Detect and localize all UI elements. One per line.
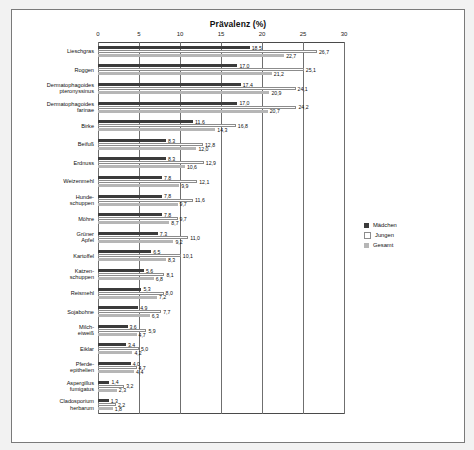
bar-gesamt xyxy=(98,110,268,113)
bar-group: Eiklar3,45,04,2 xyxy=(98,340,344,359)
bar-gesamt xyxy=(98,240,173,243)
bar-value-label: 26,7 xyxy=(319,48,329,54)
category-label: Beifuß xyxy=(78,141,98,147)
bar-gesamt xyxy=(98,351,132,354)
category-label: Reismehl xyxy=(71,290,98,296)
bar-jungen xyxy=(98,143,203,146)
category-label: Weizenmehl xyxy=(63,178,98,184)
bar-group: Hunde- schuppen7,811,69,7 xyxy=(98,191,344,210)
bar-value-label: 20,9 xyxy=(271,89,281,95)
bar-value-label: 3,2 xyxy=(126,383,133,389)
category-label: Milch- eiweiß xyxy=(78,324,98,336)
bar-mädchen xyxy=(98,64,237,67)
bar-group: Birke11,616,814,3 xyxy=(98,116,344,135)
bar-group: Pferde- epithelien4,04,74,4 xyxy=(98,358,344,377)
bar-value-label: 14,3 xyxy=(217,126,227,132)
bar-group: Sojabohne4,97,76,3 xyxy=(98,302,344,321)
bar-jungen xyxy=(98,87,296,90)
category-label: Möhre xyxy=(78,216,98,222)
bar-value-label: 5,0 xyxy=(141,346,148,352)
category-label: Cladosporium herbarum xyxy=(59,398,98,410)
bar-value-label: 4,2 xyxy=(134,350,141,356)
bar-group: Lieschgras18,526,722,7 xyxy=(98,42,344,61)
bar-mädchen xyxy=(98,157,166,160)
bar-gesamt xyxy=(98,277,154,280)
category-label: Katzen- schuppen xyxy=(70,268,98,280)
plot-area: 051015202530Lieschgras18,526,722,7Roggen… xyxy=(98,42,344,414)
legend-swatch-gesamt xyxy=(364,243,369,248)
bar-gesamt xyxy=(98,147,196,150)
bar-value-label: 6,8 xyxy=(156,275,163,281)
bar-mädchen xyxy=(98,250,151,253)
bar-gesamt xyxy=(98,72,272,75)
bar-mädchen xyxy=(98,120,193,123)
legend-label-jungen: Jungen xyxy=(375,232,394,238)
category-label: Birke xyxy=(81,123,98,129)
bar-value-label: 4,7 xyxy=(139,331,146,337)
bar-gesamt xyxy=(98,165,185,168)
category-label: Dermatophagoides farinae xyxy=(47,101,98,113)
bar-jungen xyxy=(98,403,116,406)
x-tick-label-30: 30 xyxy=(341,31,348,37)
bar-group: Grüner Apfel7,311,09,2 xyxy=(98,228,344,247)
category-label: Erdnuss xyxy=(73,160,98,166)
x-tick-label-0: 0 xyxy=(96,31,99,37)
bar-value-label: 5,9 xyxy=(148,327,155,333)
legend-label-maedchen: Mädchen xyxy=(373,222,397,228)
bar-mädchen xyxy=(98,232,158,235)
bar-gesamt xyxy=(98,128,215,131)
x-tick-label-25: 25 xyxy=(300,31,307,37)
bar-gesamt xyxy=(98,203,178,206)
category-label: Pferde- epithelien xyxy=(70,361,98,373)
bar-value-label: 12,1 xyxy=(199,178,209,184)
bar-value-label: 22,7 xyxy=(286,52,296,58)
bar-jungen xyxy=(98,124,236,127)
bar-jungen xyxy=(98,366,137,369)
bar-gesamt xyxy=(98,221,169,224)
bar-jungen xyxy=(98,217,178,220)
category-label: Grüner Apfel xyxy=(77,231,98,243)
bar-mädchen xyxy=(98,176,162,179)
bar-mädchen xyxy=(98,399,109,402)
bar-mädchen xyxy=(98,102,237,105)
legend-item-jungen: Jungen xyxy=(364,232,397,239)
bar-mädchen xyxy=(98,288,141,291)
category-label: Roggen xyxy=(74,67,98,73)
bar-value-label: 4,4 xyxy=(136,368,143,374)
bar-mädchen xyxy=(98,306,138,309)
bar-value-label: 7,2 xyxy=(159,294,166,300)
bar-group: Kartoffel6,510,18,3 xyxy=(98,247,344,266)
bar-value-label: 21,2 xyxy=(274,71,284,77)
bar-group: Weizenmehl7,812,19,9 xyxy=(98,172,344,191)
category-label: Dermatophagoides pteronyssinus xyxy=(47,82,98,94)
category-label: Hunde- schuppen xyxy=(70,194,98,206)
bar-group: Reismehl5,38,07,2 xyxy=(98,284,344,303)
bar-group: Beifuß8,312,812,0 xyxy=(98,135,344,154)
bar-group: Milch- eiweiß3,65,94,7 xyxy=(98,321,344,340)
bar-group: Aspergillus fumigatus1,43,22,3 xyxy=(98,377,344,396)
bar-mädchen xyxy=(98,325,128,328)
bar-value-label: 8,0 xyxy=(166,290,173,296)
bar-value-label: 11,6 xyxy=(195,197,205,203)
x-tick-label-10: 10 xyxy=(177,31,184,37)
bar-mädchen xyxy=(98,381,109,384)
bar-value-label: 1,8 xyxy=(115,405,122,411)
bar-group: Roggen17,025,121,2 xyxy=(98,61,344,80)
x-tick-label-15: 15 xyxy=(218,31,225,37)
bar-value-label: 24,1 xyxy=(298,85,308,91)
category-label: Aspergillus fumigatus xyxy=(67,380,98,392)
bar-value-label: 24,2 xyxy=(298,104,308,110)
bar-group: Möhre7,89,78,7 xyxy=(98,209,344,228)
bar-value-label: 25,1 xyxy=(306,67,316,73)
bar-value-label: 12,9 xyxy=(206,160,216,166)
bar-value-label: 2,3 xyxy=(119,387,126,393)
bar-value-label: 12,0 xyxy=(198,145,208,151)
bar-value-label: 8,7 xyxy=(171,219,178,225)
bar-value-label: 8,3 xyxy=(168,257,175,263)
chart-page: Prävalenz (%) 051015202530Lieschgras18,5… xyxy=(0,0,474,450)
chart-title: Prävalenz (%) xyxy=(12,19,464,29)
bar-gesamt xyxy=(98,407,113,410)
bar-value-label: 8,1 xyxy=(166,271,173,277)
legend-label-gesamt: Gesamt xyxy=(373,242,393,248)
bar-value-label: 7,7 xyxy=(163,308,170,314)
